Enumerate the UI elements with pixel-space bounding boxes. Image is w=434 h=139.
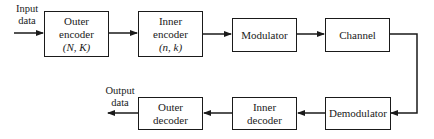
outer-encoder-label-1: Outer xyxy=(64,15,89,28)
outer-decoder-label-2: decoder xyxy=(153,114,188,127)
concatenated-coding-diagram: Input data Outer encoder (N, K) Inner en… xyxy=(0,0,434,139)
input-label-line-2: data xyxy=(10,15,44,27)
inner-encoder-label-2: encoder xyxy=(153,28,188,41)
outer-encoder-block: Outer encoder (N, K) xyxy=(44,11,109,57)
output-label-line-2: data xyxy=(100,97,140,109)
inner-encoder-label-1: Inner xyxy=(159,15,182,28)
inner-encoder-params: (n, k) xyxy=(159,41,182,54)
outer-encoder-label-2: encoder xyxy=(59,28,94,41)
outer-decoder-label-1: Outer xyxy=(158,101,183,114)
modulator-label: Modulator xyxy=(241,29,287,42)
output-data-label: Output data xyxy=(100,85,140,109)
outer-decoder-block: Outer decoder xyxy=(138,97,203,130)
output-label-line-1: Output xyxy=(100,85,140,97)
channel-label: Channel xyxy=(339,29,376,42)
modulator-block: Modulator xyxy=(232,18,297,52)
inner-decoder-label-2: decoder xyxy=(247,114,282,127)
input-label-line-1: Input xyxy=(10,3,44,15)
input-data-label: Input data xyxy=(10,3,44,27)
demodulator-block: Demodulator xyxy=(325,97,391,130)
inner-encoder-block: Inner encoder (n, k) xyxy=(138,11,203,57)
demodulator-label: Demodulator xyxy=(329,107,387,120)
inner-decoder-block: Inner decoder xyxy=(232,97,297,130)
inner-decoder-label-1: Inner xyxy=(253,101,276,114)
channel-block: Channel xyxy=(325,18,390,52)
outer-encoder-params: (N, K) xyxy=(63,41,91,54)
